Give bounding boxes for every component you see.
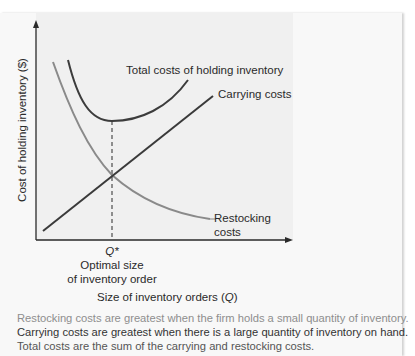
x-axis-label: Size of inventory orders (Q) [97,291,238,303]
restocking-costs-label-line2: costs [214,226,241,238]
total-costs-label: Total costs of holding inventory [126,64,284,76]
restocking-costs-label-line1: Restocking [214,212,271,224]
inventory-cost-chart: Total costs of holding inventory Carryin… [0,0,415,356]
carrying-costs-label: Carrying costs [218,88,292,100]
caption-line-total: Total costs are the sum of the carrying … [17,339,402,353]
q-star-label: Q* [105,245,119,257]
y-axis-arrow-icon [33,20,39,28]
figure-caption: Restocking costs are greatest when the f… [17,311,402,353]
caption-line-carrying: Carrying costs are greatest when there i… [17,325,402,339]
caption-line-restocking: Restocking costs are greatest when the f… [17,311,402,325]
x-axis-arrow-icon [285,237,293,243]
optimal-size-label-line1: Optimal size [80,259,143,271]
carrying-costs-line [43,96,213,231]
optimal-size-label-line2: of inventory order [67,273,157,285]
y-axis-label: Cost of holding inventory ($) [16,58,28,202]
